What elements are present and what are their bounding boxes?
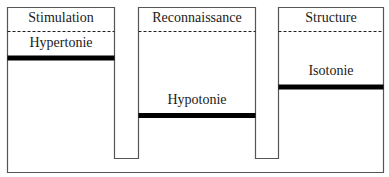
tonus-diagram: Stimulation Reconnaissance Structure Hyp… <box>0 0 389 177</box>
diagram-outline <box>0 0 389 177</box>
level-bar-hypotonie <box>139 113 256 118</box>
level-bar-hypertonie <box>8 56 115 61</box>
outer-frame <box>8 8 384 173</box>
state-label-isotonie: Isotonie <box>278 63 384 79</box>
state-label-hypotonie: Hypotonie <box>138 92 256 108</box>
column-header-structure: Structure <box>278 10 384 26</box>
state-label-hypertonie: Hypertonie <box>7 35 115 51</box>
column-header-reconnaissance: Reconnaissance <box>138 10 256 26</box>
level-bar-isotonie <box>279 85 384 90</box>
column-header-stimulation: Stimulation <box>7 10 115 26</box>
